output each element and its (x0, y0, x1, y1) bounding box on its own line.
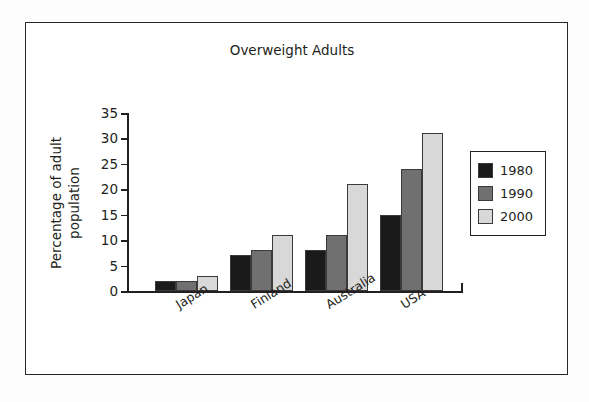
y-axis-line (127, 113, 129, 291)
y-tick-mark (121, 138, 127, 140)
legend-swatch-1980 (478, 163, 493, 178)
legend-swatch-1990 (478, 186, 493, 201)
legend-item-1990: 1990 (478, 182, 545, 205)
legend-label-1980: 1980 (500, 164, 533, 177)
y-axis-title-line-2: population (65, 128, 83, 278)
legend-label-2000: 2000 (500, 210, 533, 223)
y-tick-mark (121, 266, 127, 268)
legend: 198019902000 (470, 151, 546, 236)
y-tick-label: 25 (101, 156, 118, 172)
y-tick-label: 0 (109, 283, 118, 299)
chart-page: Overweight Adults Percentage of adult po… (0, 0, 589, 402)
bar-usa-1980 (380, 215, 401, 291)
bar-australia-1990 (326, 235, 347, 291)
chart-title: Overweight Adults (230, 42, 354, 58)
bar-usa-2000 (422, 133, 443, 291)
y-tick-mark (121, 240, 127, 242)
legend-label-1990: 1990 (500, 187, 533, 200)
bar-japan-1980 (155, 281, 176, 291)
legend-item-1980: 1980 (478, 159, 545, 182)
bar-australia-1980 (305, 250, 326, 291)
y-axis-title-text: Percentage of adult population (47, 128, 83, 278)
chart-title-container: Overweight Adults (121, 40, 463, 59)
y-tick-label: 20 (101, 181, 118, 197)
y-tick-mark (121, 113, 127, 115)
x-axis-end-tick (461, 283, 463, 292)
legend-rows: 198019902000 (478, 159, 545, 228)
y-tick-label: 10 (101, 232, 118, 248)
plot-area: 05101520253035 JapanFinlandAustraliaUSA (127, 113, 463, 291)
y-tick-label: 15 (101, 207, 118, 223)
bar-finland-1980 (230, 255, 251, 291)
y-tick-mark (121, 164, 127, 166)
y-tick-label: 5 (109, 258, 118, 274)
y-tick-label: 35 (101, 105, 118, 121)
legend-item-2000: 2000 (478, 205, 545, 228)
y-axis-title-line-1: Percentage of adult (47, 128, 65, 278)
y-tick-mark (121, 291, 127, 293)
y-tick-label: 30 (101, 130, 118, 146)
legend-swatch-2000 (478, 209, 493, 224)
y-axis-title: Percentage of adult population (47, 0, 87, 128)
bar-usa-1990 (401, 169, 422, 291)
y-tick-mark (121, 189, 127, 191)
y-tick-mark (121, 215, 127, 217)
